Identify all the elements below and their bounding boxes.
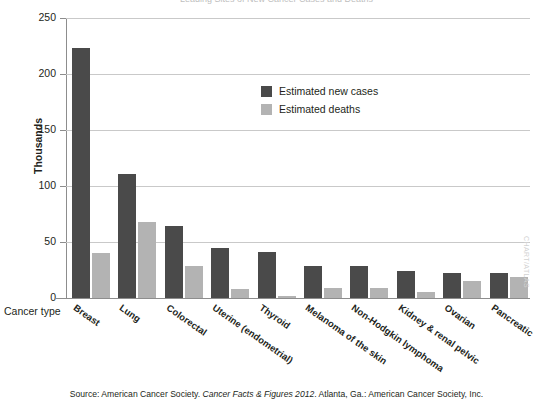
bar-estimated-new-cases: [165, 226, 183, 298]
legend-swatch-deaths: [261, 104, 272, 115]
bar-group: [258, 18, 296, 298]
y-tick-mark: [60, 130, 66, 131]
bar-estimated-deaths: [370, 288, 388, 298]
legend-item: Estimated new cases: [261, 82, 378, 100]
x-tick-label: Kidney & renal pelvic: [396, 302, 481, 366]
x-tick-label: Ovarian: [443, 302, 478, 331]
bar-group: [304, 18, 342, 298]
bar-estimated-deaths: [278, 296, 296, 298]
bar-estimated-deaths: [463, 281, 481, 298]
source-note: Source: American Cancer Society. Cancer …: [0, 389, 553, 399]
bar-group: [443, 18, 481, 298]
cancer-statistics-bar-chart: Leading Sites of New Cancer Cases and De…: [0, 0, 553, 410]
y-tick-mark: [60, 18, 66, 19]
x-tick-label: Breast: [72, 302, 103, 328]
bar-estimated-deaths: [231, 289, 249, 298]
bar-group: [397, 18, 435, 298]
legend-item: Estimated deaths: [261, 100, 378, 118]
source-publication-title: Cancer Facts & Figures 2012: [202, 389, 314, 399]
chart-title-cropped: Leading Sites of New Cancer Cases and De…: [0, 0, 553, 7]
bar-estimated-new-cases: [443, 273, 461, 298]
x-axis-title: Cancer type: [4, 305, 61, 317]
x-tick-label: Uterine (endometrial): [211, 302, 296, 366]
chart-legend: Estimated new casesEstimated deaths: [261, 82, 378, 118]
y-tick-mark: [60, 298, 66, 299]
bar-estimated-deaths: [138, 222, 156, 298]
x-tick-label: Pancreatic: [489, 302, 535, 339]
bar-estimated-new-cases: [258, 252, 276, 298]
x-axis-line: [56, 298, 530, 299]
bar-group: [118, 18, 156, 298]
bar-estimated-new-cases: [118, 174, 136, 298]
bar-group: [490, 18, 528, 298]
x-tick-label: Melanoma of the skin: [304, 302, 389, 366]
y-tick-mark: [60, 186, 66, 187]
y-tick-mark: [60, 242, 66, 243]
bar-estimated-deaths: [185, 266, 203, 298]
bar-group: [72, 18, 110, 298]
bar-estimated-new-cases: [350, 266, 368, 298]
y-tick-label: 0: [16, 291, 56, 303]
bar-estimated-new-cases: [490, 273, 508, 298]
legend-label: Estimated new cases: [279, 85, 378, 97]
bar-group: [211, 18, 249, 298]
source-prefix: Source: American Cancer Society.: [70, 389, 203, 399]
bar-estimated-new-cases: [304, 266, 322, 298]
side-credit-watermark: CHART/ATLAS: [523, 236, 530, 288]
bar-group: [350, 18, 388, 298]
x-tick-label: Non-Hodgkin lymphoma: [350, 302, 446, 374]
y-tick-label: 50: [16, 235, 56, 247]
source-suffix: . Atlanta, Ga.: American Cancer Society,…: [314, 389, 483, 399]
bar-estimated-deaths: [324, 288, 342, 298]
y-axis-title: Thousands: [32, 86, 44, 206]
x-tick-label: Thyroid: [257, 302, 292, 331]
y-tick-label: 250: [16, 11, 56, 23]
bar-estimated-new-cases: [72, 48, 90, 298]
y-tick-label: 200: [16, 67, 56, 79]
bar-estimated-new-cases: [211, 248, 229, 298]
chart-title-text: Leading Sites of New Cancer Cases and De…: [0, 0, 553, 4]
bar-estimated-deaths: [417, 292, 435, 298]
plot-area: [66, 18, 530, 298]
bar-group: [165, 18, 203, 298]
x-tick-label: Colorectal: [164, 302, 208, 338]
x-tick-label: Lung: [118, 302, 143, 324]
y-tick-mark: [60, 74, 66, 75]
legend-swatch-cases: [261, 86, 272, 97]
legend-label: Estimated deaths: [279, 103, 360, 115]
bar-estimated-new-cases: [397, 271, 415, 298]
bar-estimated-deaths: [92, 253, 110, 298]
